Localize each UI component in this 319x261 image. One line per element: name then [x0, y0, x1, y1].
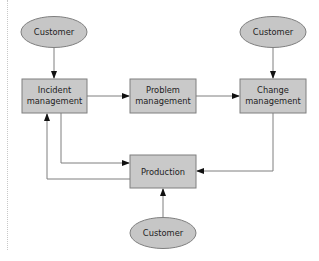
customer-node-bottom: Customer [130, 218, 196, 249]
change-label-line1: Change [257, 85, 289, 95]
production-node: Production [130, 155, 196, 188]
edge-incident-to-production [61, 113, 129, 163]
problem-label-line2: management [135, 96, 191, 106]
customer-node-top-right: Customer [240, 17, 306, 48]
incident-management-node: Incident management [22, 79, 87, 113]
customer-node-top-left: Customer [21, 17, 87, 48]
problem-management-node: Problem management [130, 79, 196, 113]
incident-label-line1: Incident [38, 85, 72, 95]
customer-label: Customer [34, 27, 75, 37]
itil-process-diagram: Customer Customer Incident management Pr… [0, 0, 319, 261]
edge-production-to-incident [47, 114, 130, 179]
change-management-node: Change management [240, 79, 306, 113]
edge-change-to-production [197, 113, 273, 171]
production-label: Production [141, 167, 185, 177]
incident-label-line2: management [27, 96, 83, 106]
customer-label: Customer [253, 27, 294, 37]
customer-label: Customer [143, 228, 184, 238]
change-label-line2: management [245, 96, 301, 106]
problem-label-line1: Problem [146, 85, 180, 95]
